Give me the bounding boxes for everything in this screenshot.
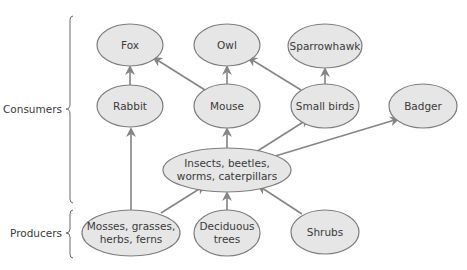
node-fox: Fox [97,24,163,66]
node-deciduous-label-line2: trees [214,233,241,245]
node-sparrowhawk: Sparrowhawk [288,24,362,68]
node-fox-label: Fox [121,39,139,51]
node-insects: Insects, beetles, worms, caterpillars [163,148,291,192]
node-badger-label: Badger [404,100,442,112]
node-shrubs-label: Shrubs [307,226,343,238]
node-mouse: Mouse [194,84,260,128]
producers-label: Producers [10,227,62,239]
arrow-insects-to-small-birds [256,119,308,152]
node-small-birds-label: Small birds [296,100,354,112]
node-mosses-label-line2: herbs, ferns [100,233,163,245]
consumers-bracket [66,16,73,203]
node-rabbit-label: Rabbit [113,100,147,112]
node-insects-label-line2: worms, caterpillars [177,170,277,182]
consumers-label: Consumers [3,103,62,115]
arrow-shrubs-to-insects [259,186,302,214]
node-small-birds: Small birds [291,84,359,128]
node-insects-label-line1: Insects, beetles, [184,157,270,169]
node-badger: Badger [389,84,457,128]
node-owl-label: Owl [217,39,237,51]
node-mosses-label-line1: Mosses, grasses, [87,220,176,232]
producers-bracket [66,210,73,258]
arrow-small-birds-to-owl [249,58,301,90]
food-web-diagram: Consumers Producers Fox Owl Sparrowhawk … [0,0,467,270]
arrow-mouse-to-fox [154,58,205,90]
node-deciduous-trees: Deciduous trees [194,210,260,256]
node-deciduous-label-line1: Deciduous [199,220,254,232]
node-mosses: Mosses, grasses, herbs, ferns [82,210,180,256]
node-rabbit: Rabbit [97,85,163,127]
node-mouse-label: Mouse [210,100,244,112]
node-sparrowhawk-label: Sparrowhawk [290,40,362,52]
node-shrubs: Shrubs [291,210,359,254]
node-owl: Owl [194,24,260,66]
